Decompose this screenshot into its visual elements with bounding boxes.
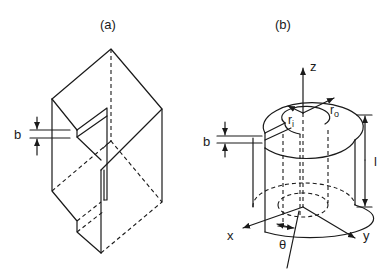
- block-outline: [52, 49, 162, 253]
- z-axis: z: [303, 59, 317, 113]
- dimension-b-a: b: [14, 117, 70, 155]
- slit-width-label-a: b: [14, 127, 21, 142]
- panel-a: (a): [14, 17, 162, 253]
- inner-radius-label: ri: [288, 113, 294, 129]
- dimension-l: l: [357, 115, 377, 207]
- y-axis-label: y: [363, 228, 370, 243]
- panel-a-label: (a): [100, 17, 116, 32]
- theta-label: θ: [279, 237, 286, 252]
- z-axis-label: z: [310, 59, 317, 74]
- slit-width-label-b: b: [203, 134, 210, 149]
- x-axis-label: x: [227, 228, 234, 243]
- figure: (a): [0, 0, 389, 280]
- panel-b-label: (b): [275, 17, 291, 32]
- cylinder-top: [263, 103, 363, 159]
- length-label: l: [374, 154, 377, 169]
- cylinder-walls: [253, 138, 374, 238]
- panel-b: (b) z ri ro: [203, 17, 377, 268]
